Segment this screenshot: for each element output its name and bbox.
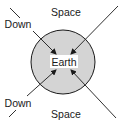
space-label-top: Space	[51, 6, 81, 18]
lower-left-tick	[9, 110, 16, 117]
down-label-upper: Down	[5, 18, 32, 30]
down-label-lower: Down	[5, 97, 32, 109]
upper-left-tick	[10, 8, 20, 18]
earth-gravity-diagram: Earth Space Space Down Down	[0, 0, 124, 125]
space-label-bottom: Space	[51, 108, 81, 120]
earth-label: Earth	[51, 56, 76, 68]
